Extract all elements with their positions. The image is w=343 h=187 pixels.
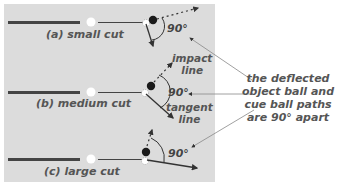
tangent-line-label-word1: tangent <box>166 101 213 113</box>
note-line: the deflected <box>238 72 338 85</box>
cue-ball-start <box>87 155 96 164</box>
cue-stick <box>8 91 80 94</box>
impact-line-label-word1: impact <box>172 52 212 64</box>
cue-ball-path <box>147 160 197 168</box>
object-ball <box>142 148 150 156</box>
object-ball-path <box>157 8 198 19</box>
ghost-ball <box>142 158 149 165</box>
cue-stick <box>8 21 80 24</box>
tangent-line-label-word2: line <box>166 113 213 125</box>
cue-stick <box>8 158 80 161</box>
tangent-line-label: tangent line <box>166 101 213 125</box>
note-line: cue ball paths <box>238 98 338 111</box>
case-a-label: (a) small cut <box>46 28 124 41</box>
explanatory-note: the deflected object ball and cue ball p… <box>238 72 338 124</box>
note-line: object ball and <box>238 85 338 98</box>
angle-label-a: 90° <box>167 22 188 35</box>
impact-line-label-word2: line <box>172 64 212 76</box>
angle-label-b: 90° <box>168 86 189 99</box>
case-c-label: (c) large cut <box>44 165 120 178</box>
object-ball <box>147 82 155 90</box>
object-ball <box>149 16 157 24</box>
cue-ball-start <box>87 18 96 27</box>
cue-ball-start <box>87 88 96 97</box>
case-b-label: (b) medium cut <box>36 97 131 110</box>
angle-label-c: 90° <box>168 147 189 160</box>
impact-line-label: impact line <box>172 52 212 76</box>
object-ball-path <box>154 63 172 82</box>
cue-ball-path <box>146 24 153 46</box>
note-line: are 90° apart <box>238 111 338 124</box>
angle-arc <box>151 138 164 162</box>
